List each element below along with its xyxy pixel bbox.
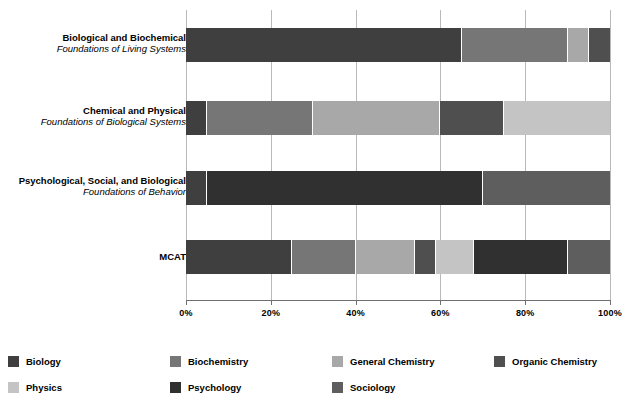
legend-label: General Chemistry	[350, 356, 434, 367]
bar-track	[186, 28, 610, 62]
legend-item-general-chemistry[interactable]: General Chemistry	[332, 356, 494, 367]
legend-item-organic-chemistry[interactable]: Organic Chemistry	[494, 356, 643, 367]
legend-swatch-icon	[8, 382, 19, 393]
bar-segment-organic-chemistry	[415, 240, 436, 274]
bar-segment-organic-chemistry	[589, 28, 610, 62]
bar-row: Biological and BiochemicalFoundations of…	[0, 28, 643, 62]
bar-track	[186, 171, 610, 205]
bar-segment-biology	[186, 171, 207, 205]
legend-label: Biochemistry	[188, 356, 248, 367]
legend-label: Biology	[26, 356, 61, 367]
stacked-bar-chart: Biological and BiochemicalFoundations of…	[0, 0, 643, 410]
x-tick-label: 0%	[179, 308, 192, 318]
bar-row-label: Chemical and PhysicalFoundations of Biol…	[0, 105, 186, 127]
bar-segment-general-chemistry	[568, 28, 589, 62]
bar-segment-biology	[186, 28, 462, 62]
bar-row-title: MCAT	[0, 251, 186, 262]
bar-row-subtitle: Foundations of Biological Systems	[0, 116, 186, 127]
x-tick-label: 60%	[431, 308, 450, 318]
bar-row-subtitle: Foundations of Living Systems	[0, 43, 186, 54]
legend-swatch-icon	[170, 356, 181, 367]
tick-mark	[356, 300, 357, 305]
legend-item-biology[interactable]: Biology	[8, 356, 170, 367]
bar-segment-biochemistry	[292, 240, 356, 274]
bar-segment-general-chemistry	[313, 101, 440, 135]
bar-row-label: MCAT	[0, 251, 186, 262]
legend-item-psychology[interactable]: Psychology	[170, 382, 332, 393]
bar-segment-biology	[186, 101, 207, 135]
legend-swatch-icon	[332, 356, 343, 367]
bar-segment-psychology	[474, 240, 567, 274]
legend-label: Psychology	[188, 382, 241, 393]
legend-swatch-icon	[494, 356, 505, 367]
bar-row-title: Chemical and Physical	[0, 105, 186, 116]
bar-segment-sociology	[568, 240, 610, 274]
legend-swatch-icon	[332, 382, 343, 393]
x-tick-label: 20%	[261, 308, 280, 318]
legend-item-physics[interactable]: Physics	[8, 382, 170, 393]
x-tick-label: 100%	[598, 308, 622, 318]
legend-item-biochemistry[interactable]: Biochemistry	[170, 356, 332, 367]
bar-row-subtitle: Foundations of Behavior	[0, 186, 186, 197]
x-axis-line	[186, 300, 610, 301]
tick-mark	[525, 300, 526, 305]
bar-row: Chemical and PhysicalFoundations of Biol…	[0, 101, 643, 135]
tick-mark	[610, 300, 611, 305]
bar-segment-biology	[186, 240, 292, 274]
bar-row-title: Psychological, Social, and Biological	[0, 175, 186, 186]
bar-row-label: Psychological, Social, and BiologicalFou…	[0, 175, 186, 197]
bar-segment-organic-chemistry	[440, 101, 504, 135]
legend-swatch-icon	[8, 356, 19, 367]
bar-row: Psychological, Social, and BiologicalFou…	[0, 171, 643, 205]
chart-legend: BiologyBiochemistryGeneral ChemistryOrga…	[8, 348, 638, 400]
bar-row-label: Biological and BiochemicalFoundations of…	[0, 32, 186, 54]
bar-segment-general-chemistry	[356, 240, 415, 274]
bar-track	[186, 240, 610, 274]
bar-segment-psychology	[207, 171, 483, 205]
bar-segment-physics	[504, 101, 610, 135]
legend-label: Organic Chemistry	[512, 356, 597, 367]
bar-row: MCAT	[0, 240, 643, 274]
legend-label: Sociology	[350, 382, 395, 393]
legend-swatch-icon	[170, 382, 181, 393]
tick-mark	[186, 300, 187, 305]
bar-segment-biochemistry	[462, 28, 568, 62]
bar-segment-biochemistry	[207, 101, 313, 135]
bar-row-title: Biological and Biochemical	[0, 32, 186, 43]
bar-segment-sociology	[483, 171, 610, 205]
x-tick-label: 40%	[346, 308, 365, 318]
tick-mark	[440, 300, 441, 305]
x-tick-label: 80%	[516, 308, 535, 318]
bar-segment-physics	[436, 240, 474, 274]
tick-mark	[271, 300, 272, 305]
legend-label: Physics	[26, 382, 62, 393]
legend-item-sociology[interactable]: Sociology	[332, 382, 494, 393]
bar-track	[186, 101, 610, 135]
